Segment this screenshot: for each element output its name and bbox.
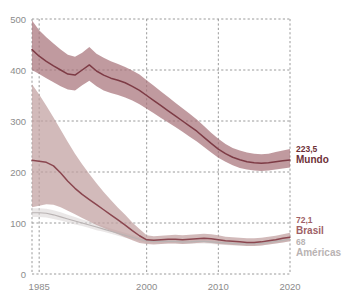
chart-container: 0100200300400500 1985200020102020 223,5 …	[0, 0, 342, 301]
y-axis-ticks: 0100200300400500	[10, 14, 26, 280]
x-tick-label: 2010	[208, 281, 229, 292]
x-tick-label: 1985	[29, 281, 50, 292]
annotation-mundo-label: Mundo	[296, 154, 329, 165]
annotation-americas-value: 68	[296, 237, 306, 247]
x-tick-label: 2000	[136, 281, 157, 292]
y-tick-label: 200	[10, 167, 26, 178]
y-tick-label: 300	[10, 116, 26, 127]
annotation-mundo-value: 223,5	[296, 144, 318, 154]
annotation-brasil-value: 72,1	[296, 215, 313, 225]
annotation-brasil-label: Brasil	[296, 225, 324, 236]
line-chart: 0100200300400500 1985200020102020 223,5 …	[0, 0, 342, 301]
y-tick-label: 500	[10, 14, 26, 25]
annotation-brasil: 72,1 Brasil	[296, 215, 324, 236]
annotation-americas-label: Américas	[296, 247, 341, 258]
annotation-americas: 68 Américas	[296, 237, 341, 258]
y-tick-label: 100	[10, 218, 26, 229]
x-tick-label: 2020	[279, 281, 300, 292]
y-tick-label: 400	[10, 65, 26, 76]
annotation-mundo: 223,5 Mundo	[296, 144, 329, 165]
x-axis-ticks: 1985200020102020	[29, 281, 301, 292]
confidence-bands	[32, 21, 290, 246]
y-tick-label: 0	[21, 269, 26, 280]
